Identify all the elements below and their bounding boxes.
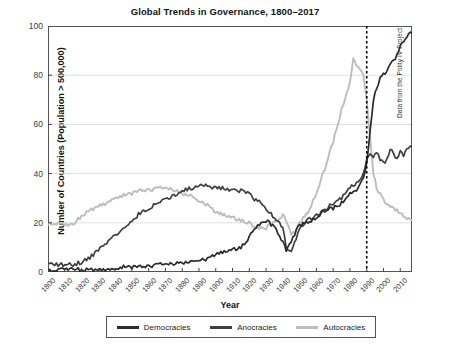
series-line-anocracies	[48, 146, 412, 266]
chart-title: Global Trends in Governance, 1800–2017	[0, 6, 450, 17]
plot-area: Number of Countries (Population > 500,00…	[48, 26, 412, 272]
x-tick-label: 1850	[123, 276, 141, 294]
x-tick-label: 1880	[173, 276, 191, 294]
x-tick-label: 1840	[106, 276, 124, 294]
x-tick-label: 1830	[90, 276, 108, 294]
source-note: Data from the Polity IV Project	[396, 0, 403, 118]
x-tick-label: 1900	[207, 276, 225, 294]
legend-label: Autocracies	[323, 323, 365, 332]
x-tick-label: 1810	[56, 276, 74, 294]
y-tick-label: 0	[38, 267, 43, 277]
legend-label: Democracies	[144, 323, 191, 332]
legend-item-anocracies[interactable]: Anocracies	[210, 323, 277, 332]
x-tick-label: 1920	[240, 276, 258, 294]
x-tick-label: 1910	[224, 276, 242, 294]
x-tick-label: 1960	[308, 276, 326, 294]
chart-figure: Global Trends in Governance, 1800–2017 N…	[0, 0, 450, 353]
y-tick-label: 40	[34, 169, 43, 179]
x-tick-label: 1940	[274, 276, 292, 294]
x-tick-label: 1870	[157, 276, 175, 294]
plot-frame	[49, 27, 412, 272]
chart-canvas	[48, 26, 412, 272]
x-tick-label: 2010	[391, 276, 409, 294]
x-tick-label: 1820	[73, 276, 91, 294]
y-tick-label: 100	[29, 21, 43, 31]
x-tick-label: 1930	[257, 276, 275, 294]
x-tick-label: 1970	[324, 276, 342, 294]
x-tick-label: 1800	[39, 276, 57, 294]
legend-swatch-democracies	[117, 326, 139, 329]
legend-swatch-autocracies	[296, 326, 318, 329]
x-tick-label: 1980	[341, 276, 359, 294]
x-tick-label: 2000	[375, 276, 393, 294]
y-tick-label: 60	[34, 119, 43, 129]
y-tick-label: 80	[34, 70, 43, 80]
x-tick-label: 1950	[291, 276, 309, 294]
x-axis-label: Year	[48, 300, 412, 310]
legend-label: Anocracies	[237, 323, 277, 332]
legend-item-autocracies[interactable]: Autocracies	[296, 323, 365, 332]
x-tick-label: 1860	[140, 276, 158, 294]
y-tick-label: 20	[34, 218, 43, 228]
x-tick-label: 1990	[358, 276, 376, 294]
series-line-autocracies	[48, 58, 412, 234]
series-line-democracies	[48, 32, 412, 271]
chart-legend: DemocraciesAnocraciesAutocracies	[106, 316, 376, 338]
legend-item-democracies[interactable]: Democracies	[117, 323, 191, 332]
x-tick-label: 1890	[190, 276, 208, 294]
legend-swatch-anocracies	[210, 326, 232, 329]
